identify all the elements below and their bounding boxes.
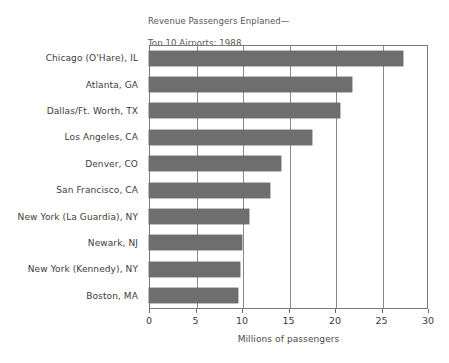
x-tick-mark: [428, 309, 429, 313]
bar-row: [149, 203, 428, 229]
category-label: Boston, MA: [86, 291, 138, 301]
category-axis-labels: Chicago (O'Hare), ILAtlanta, GADallas/Ft…: [0, 45, 144, 309]
category-label: Newark, NJ: [88, 238, 138, 248]
x-tick-label: 30: [422, 315, 434, 326]
bar: [149, 77, 352, 92]
x-tick-label: 15: [282, 315, 294, 326]
bar-row: [149, 177, 428, 203]
category-label: Los Angeles, CA: [65, 132, 138, 142]
category-label-row: New York (La Guardia), NY: [0, 203, 144, 229]
x-tick-mark: [289, 309, 290, 313]
x-tick-label: 25: [375, 315, 387, 326]
category-label: San Francisco, CA: [56, 185, 138, 195]
x-tick-label: 10: [236, 315, 248, 326]
x-tick-mark: [242, 309, 243, 313]
x-tick-mark: [335, 309, 336, 313]
x-tick-mark: [382, 309, 383, 313]
category-label-row: Los Angeles, CA: [0, 124, 144, 150]
x-tick-mark: [196, 309, 197, 313]
bar-row: [149, 230, 428, 256]
category-label-row: Atlanta, GA: [0, 71, 144, 97]
category-label: Chicago (O'Hare), IL: [46, 53, 138, 63]
category-label-row: Chicago (O'Hare), IL: [0, 45, 144, 71]
bar-row: [149, 98, 428, 124]
x-tick-mark: [149, 309, 150, 313]
category-label-row: San Francisco, CA: [0, 177, 144, 203]
category-label: Denver, CO: [85, 159, 138, 169]
category-label: Atlanta, GA: [86, 80, 138, 90]
category-label: Dallas/Ft. Worth, TX: [47, 106, 138, 116]
bar-row: [149, 256, 428, 282]
bars-layer: [149, 45, 428, 309]
chart-title-line-1: Revenue Passengers Enplaned—: [148, 16, 289, 26]
x-tick-label: 0: [146, 315, 152, 326]
bar: [149, 130, 312, 145]
bar: [149, 235, 242, 250]
x-tick-label: 5: [192, 315, 198, 326]
category-label: New York (Kennedy), NY: [28, 264, 138, 274]
category-label: New York (La Guardia), NY: [18, 212, 138, 222]
bar: [149, 262, 240, 277]
bar: [149, 183, 270, 198]
bar-chart: Revenue Passengers Enplaned— Top 10 Airp…: [0, 0, 449, 363]
bar-row: [149, 71, 428, 97]
bar: [149, 51, 403, 66]
x-tick-label: 20: [329, 315, 341, 326]
chart-title: Revenue Passengers Enplaned— Top 10 Airp…: [148, 5, 289, 49]
bar-row: [149, 124, 428, 150]
value-axis-ticks: 051015202530: [149, 309, 428, 329]
bar-row: [149, 283, 428, 309]
category-label-row: New York (Kennedy), NY: [0, 256, 144, 282]
category-label-row: Dallas/Ft. Worth, TX: [0, 98, 144, 124]
bar: [149, 156, 281, 171]
x-axis-title: Millions of passengers: [149, 334, 428, 344]
bar: [149, 209, 249, 224]
bar-row: [149, 45, 428, 71]
bar: [149, 103, 340, 118]
category-label-row: Newark, NJ: [0, 230, 144, 256]
category-label-row: Denver, CO: [0, 151, 144, 177]
bar-row: [149, 151, 428, 177]
category-label-row: Boston, MA: [0, 283, 144, 309]
bar: [149, 288, 238, 303]
